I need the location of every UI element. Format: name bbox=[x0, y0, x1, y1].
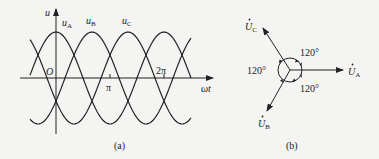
phasor-label-UA: UA bbox=[348, 66, 360, 79]
waveform-figure: u O ωt π 2π uA uB uC (a) bbox=[20, 7, 213, 152]
three-phase-diagram: u O ωt π 2π uA uB uC (a) 120° 120° 120° bbox=[0, 0, 379, 159]
wave-label-uB: uB bbox=[86, 15, 96, 28]
y-axis-label: u bbox=[45, 7, 50, 18]
x-axis-label: ωt bbox=[201, 83, 211, 94]
dot-accent-UB bbox=[262, 116, 264, 118]
phasor-label-UB: UB bbox=[258, 118, 270, 131]
angle-label-1: 120° bbox=[300, 47, 319, 58]
angle-label-2: 120° bbox=[247, 65, 266, 76]
phasor-label-UC: UC bbox=[245, 21, 257, 34]
wave-label-uA: uA bbox=[62, 17, 72, 30]
arc-arrow-4 bbox=[292, 79, 296, 83]
dot-accent-UC bbox=[249, 19, 251, 21]
phasor-UB bbox=[267, 70, 290, 111]
caption-a: (a) bbox=[114, 140, 125, 152]
caption-b: (b) bbox=[286, 140, 298, 152]
wave-label-uC: uC bbox=[122, 15, 132, 28]
angle-label-3: 120° bbox=[300, 83, 319, 94]
origin-label: O bbox=[46, 66, 53, 77]
tick-label-pi: π bbox=[106, 82, 111, 93]
phasor-figure: 120° 120° 120° UC UA UB (b) bbox=[245, 19, 360, 152]
phasor-UC bbox=[263, 28, 290, 70]
tick-label-2pi: 2π bbox=[156, 65, 166, 76]
dot-accent-UA bbox=[352, 64, 354, 66]
